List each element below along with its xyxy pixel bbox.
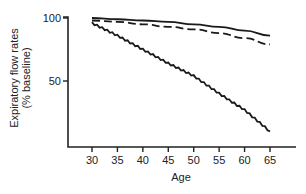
series-group <box>92 18 270 131</box>
y-tick-label: 100 <box>43 12 61 24</box>
axis-lines <box>63 17 296 147</box>
line-chart: 501003035404550556065 Age <box>0 0 306 194</box>
x-axis-title: Age <box>171 171 191 183</box>
series-line-jagged <box>92 22 270 131</box>
axes: 501003035404550556065 <box>43 12 296 166</box>
x-tick-label: 60 <box>238 154 250 166</box>
y-tick-label: 50 <box>49 75 61 87</box>
x-tick-label: 30 <box>86 154 98 166</box>
x-tick-label: 55 <box>213 154 225 166</box>
x-tick-label: 45 <box>162 154 174 166</box>
x-tick-label: 35 <box>111 154 123 166</box>
x-tick-label: 65 <box>264 154 276 166</box>
series-line-dashed <box>92 21 270 45</box>
x-tick-label: 50 <box>188 154 200 166</box>
x-tick-label: 40 <box>137 154 149 166</box>
series-line-solid <box>92 18 270 36</box>
